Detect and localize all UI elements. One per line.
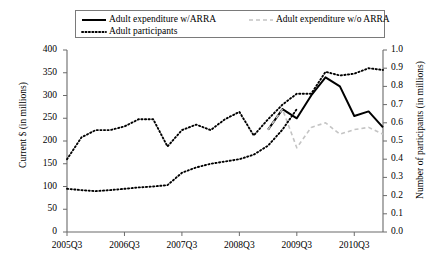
axis-lines (67, 50, 383, 232)
y-axis-right-tick-label: 0.9 (391, 62, 417, 72)
y-axis-right-tick-label: 0.6 (391, 117, 417, 127)
y-axis-right-tick-label: 0.0 (391, 226, 417, 236)
chart-figure: Current $ (in millions) Number of partic… (0, 0, 445, 265)
x-axis-tick-label: 2009Q3 (269, 240, 325, 250)
x-axis-tick-label: 2008Q3 (211, 240, 267, 250)
y-axis-right-tick-label: 0.2 (391, 190, 417, 200)
y-axis-right-tick-label: 0.1 (391, 208, 417, 218)
x-axis-tick-label: 2010Q3 (326, 240, 382, 250)
y-axis-left-tick-label: 400 (31, 44, 57, 54)
series-line-2 (67, 68, 383, 159)
y-axis-right-tick-label: 0.8 (391, 80, 417, 90)
plot-area (0, 0, 445, 265)
dotted-line-swatch (81, 27, 107, 37)
y-axis-left-ticks (63, 50, 67, 232)
legend-label-2: Adult participants (109, 25, 177, 38)
data-series-layer (67, 68, 383, 191)
y-axis-right-tick-label: 1.0 (391, 44, 417, 54)
legend-item-adult-expenditure-wo-arra: Adult expenditure w/o ARRA (248, 13, 390, 26)
y-axis-left-tick-label: 50 (31, 203, 57, 213)
dashed-line-swatch (248, 15, 274, 25)
series-line-3 (67, 109, 297, 191)
x-axis-tick-label: 2005Q3 (39, 240, 95, 250)
legend-item-adult-participants: Adult participants (81, 25, 177, 38)
y-axis-left-tick-label: 300 (31, 90, 57, 100)
y-axis-left-tick-label: 250 (31, 112, 57, 122)
x-axis-ticks (67, 232, 354, 236)
y-axis-left-tick-label: 100 (31, 181, 57, 191)
y-axis-right-tick-label: 0.3 (391, 171, 417, 181)
y-axis-right-ticks (383, 50, 387, 232)
x-axis-tick-label: 2006Q3 (96, 240, 152, 250)
y-axis-right-tick-label: 0.5 (391, 135, 417, 145)
y-axis-left-tick-label: 150 (31, 158, 57, 168)
y-axis-left-tick-label: 350 (31, 67, 57, 77)
solid-line-swatch (81, 15, 107, 25)
chart-legend: Adult expenditure w/ARRA Adult expenditu… (75, 10, 385, 38)
y-axis-right-tick-label: 0.7 (391, 99, 417, 109)
y-axis-right-tick-label: 0.4 (391, 153, 417, 163)
y-axis-left-tick-label: 0 (31, 226, 57, 236)
y-axis-left-tick-label: 200 (31, 135, 57, 145)
x-axis-tick-label: 2007Q3 (154, 240, 210, 250)
series-line-1 (268, 109, 383, 148)
legend-label-1: Adult expenditure w/o ARRA (276, 13, 390, 26)
